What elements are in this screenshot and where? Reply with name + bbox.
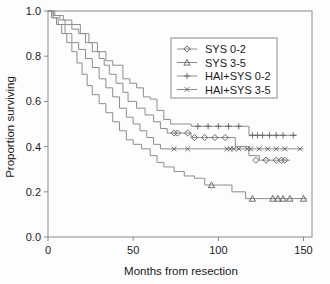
- x-tick-label: 100: [209, 244, 227, 256]
- kaplan-meier-plot: 0501001500.00.20.40.60.81.0 SYS 0-2SYS 3…: [0, 0, 330, 284]
- y-tick-label: 0.0: [26, 231, 41, 243]
- x-tick-label: 0: [45, 244, 51, 256]
- y-axis-title: Proportion surviving: [4, 76, 16, 178]
- x-tick-label: 50: [127, 244, 139, 256]
- y-tick-label: 1.0: [26, 5, 41, 17]
- legend-label: HAI+SYS 3-5: [205, 84, 271, 96]
- y-tick-label: 0.6: [26, 95, 41, 107]
- legend-label: HAI+SYS 0-2: [205, 70, 271, 82]
- survival-chart-figure: 0501001500.00.20.40.60.81.0 SYS 0-2SYS 3…: [0, 0, 330, 284]
- x-axis-title: Months from resection: [124, 265, 238, 277]
- figure-background: [0, 0, 330, 284]
- y-tick-label: 0.4: [26, 141, 41, 153]
- x-tick-label: 150: [294, 244, 312, 256]
- y-tick-label: 0.2: [26, 186, 41, 198]
- chart-legend[interactable]: SYS 0-2SYS 3-5HAI+SYS 0-2HAI+SYS 3-5: [171, 38, 277, 98]
- legend-label: SYS 0-2: [205, 43, 246, 55]
- legend-label: SYS 3-5: [205, 57, 246, 69]
- y-tick-label: 0.8: [26, 50, 41, 62]
